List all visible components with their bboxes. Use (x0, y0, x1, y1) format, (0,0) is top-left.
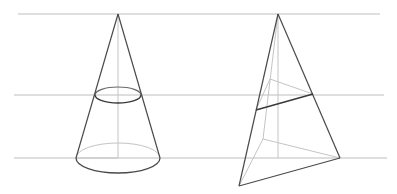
pyramid-hidden-edge-back-left (239, 139, 263, 186)
cone (76, 14, 160, 173)
pyramid-hidden-edge-back-right (263, 139, 340, 158)
cone-base-front-arc (76, 158, 160, 173)
cone-left-edge (76, 14, 118, 158)
pyramid (239, 14, 340, 186)
pyramid-section-front (256, 94, 313, 110)
pyramid-hidden-edge-apex-back (263, 14, 278, 139)
cone-right-edge (118, 14, 160, 158)
diagram-canvas (0, 0, 397, 194)
pyramid-edge-apex-left (239, 14, 278, 186)
pyramid-edge-apex-right (278, 14, 340, 158)
pyramid-edge-base-front (239, 158, 340, 186)
